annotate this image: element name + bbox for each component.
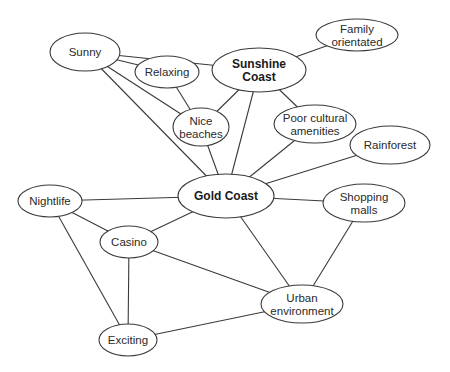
- node-casino: Casino: [100, 226, 158, 258]
- node-label: Gold Coast: [194, 189, 258, 203]
- node-label: Sunshine: [232, 57, 286, 71]
- node-gold-coast: Gold Coast: [178, 174, 274, 218]
- node-label: Nightlife: [29, 195, 71, 207]
- node-sunshine-coast: SunshineCoast: [212, 48, 306, 92]
- node-shopping-malls: Shoppingmalls: [323, 184, 405, 222]
- node-label: Family: [340, 23, 374, 35]
- node-label: environment: [270, 305, 334, 317]
- node-urban-environment: Urbanenvironment: [261, 285, 343, 323]
- node-relaxing: Relaxing: [135, 56, 199, 88]
- node-label: Rainforest: [364, 139, 417, 151]
- node-label: Casino: [111, 236, 147, 248]
- node-rainforest: Rainforest: [350, 126, 430, 164]
- node-label: orientated: [331, 36, 382, 48]
- node-nice-beaches: Nicebeaches: [173, 108, 229, 146]
- node-label: Exciting: [108, 334, 148, 346]
- node-exciting: Exciting: [99, 324, 157, 356]
- node-label: beaches: [179, 128, 223, 140]
- node-label: Poor cultural: [283, 112, 348, 124]
- node-label: Sunny: [69, 46, 102, 58]
- node-label: Coast: [242, 70, 275, 84]
- node-poor-cultural-amenities: Poor culturalamenities: [274, 105, 356, 143]
- node-label: Relaxing: [145, 66, 190, 78]
- node-label: Urban: [286, 292, 317, 304]
- node-label: Nice: [189, 115, 212, 127]
- node-sunny: Sunny: [50, 33, 120, 71]
- nodes-layer: SunnyRelaxingSunshineCoastFamilyorientat…: [18, 19, 430, 356]
- node-label: Shopping: [340, 191, 389, 203]
- node-family-orientated: Familyorientated: [316, 19, 398, 51]
- node-label: amenities: [290, 125, 339, 137]
- concept-map: SunnyRelaxingSunshineCoastFamilyorientat…: [0, 0, 450, 372]
- node-nightlife: Nightlife: [18, 185, 82, 217]
- node-label: malls: [351, 204, 378, 216]
